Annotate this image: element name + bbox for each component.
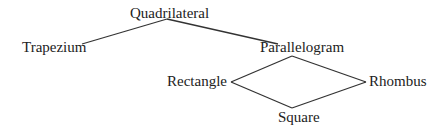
node-quadrilateral: Quadrilateral xyxy=(130,6,209,21)
edge-parallelogram-rhombus xyxy=(292,56,366,82)
edge-quadrilateral-trapezium xyxy=(82,19,167,44)
node-square: Square xyxy=(278,110,320,125)
node-rhombus: Rhombus xyxy=(369,74,427,89)
edge-parallelogram-rectangle xyxy=(231,56,292,82)
node-parallelogram: Parallelogram xyxy=(260,40,344,55)
node-trapezium: Trapezium xyxy=(22,40,86,55)
diagram-edges xyxy=(0,0,448,134)
edge-rhombus-square xyxy=(292,82,366,108)
node-rectangle: Rectangle xyxy=(167,74,227,89)
edge-rectangle-square xyxy=(231,82,292,108)
